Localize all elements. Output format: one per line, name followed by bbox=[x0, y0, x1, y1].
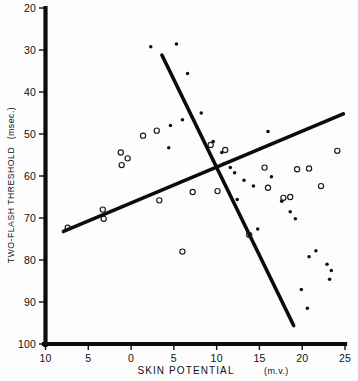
regression-lines bbox=[63, 55, 343, 325]
data-point-filled bbox=[330, 269, 334, 273]
data-point-filled bbox=[181, 118, 185, 122]
y-axis-title: TWO-FLASH THRESHOLD bbox=[6, 147, 16, 263]
data-point-open bbox=[125, 156, 130, 161]
data-point-filled bbox=[199, 111, 203, 115]
x-tick-label: 10 bbox=[39, 352, 51, 364]
data-point-open bbox=[208, 142, 213, 147]
data-point-filled bbox=[256, 227, 260, 231]
data-point-open bbox=[281, 195, 286, 200]
data-point-filled bbox=[235, 198, 239, 202]
y-tick-label: 20 bbox=[24, 2, 36, 14]
data-point-open bbox=[154, 128, 159, 133]
data-point-filled bbox=[233, 171, 237, 175]
x-tick-label: 10 bbox=[211, 352, 223, 364]
data-point-open bbox=[288, 194, 293, 199]
x-tick-label: 25 bbox=[339, 352, 351, 364]
data-point-open bbox=[215, 189, 220, 194]
figure-scatter-plot: 1050510152025 2030405060708090100 SKIN P… bbox=[0, 0, 358, 381]
data-point-open bbox=[157, 198, 162, 203]
data-point-filled bbox=[252, 184, 256, 188]
y-tick-label: 100 bbox=[18, 338, 36, 350]
descending-fit bbox=[162, 55, 294, 325]
data-point-filled bbox=[288, 210, 292, 214]
data-point-open bbox=[118, 150, 123, 155]
plot-canvas: 1050510152025 2030405060708090100 SKIN P… bbox=[0, 0, 358, 381]
y-tick-label: 70 bbox=[24, 212, 36, 224]
ascending-fit bbox=[63, 114, 343, 232]
data-point-open bbox=[101, 216, 106, 221]
caption-strip bbox=[0, 373, 358, 381]
data-point-filled bbox=[223, 162, 227, 166]
data-point-filled bbox=[270, 175, 274, 179]
x-tick-label: 5 bbox=[85, 352, 91, 364]
x-tick-label: 20 bbox=[296, 352, 308, 364]
x-tick-label: 0 bbox=[128, 352, 134, 364]
data-point-open bbox=[306, 166, 311, 171]
data-point-filled bbox=[314, 249, 318, 253]
data-point-filled bbox=[306, 307, 310, 311]
data-point-open bbox=[262, 165, 267, 170]
y-tick-label: 30 bbox=[24, 44, 36, 56]
data-point-filled bbox=[328, 278, 332, 282]
data-points bbox=[65, 42, 340, 310]
data-point-open bbox=[294, 167, 299, 172]
data-point-filled bbox=[307, 255, 311, 259]
data-point-open bbox=[180, 249, 185, 254]
data-point-filled bbox=[300, 288, 304, 292]
y-tick-label: 60 bbox=[24, 170, 36, 182]
data-point-filled bbox=[266, 130, 270, 134]
y-axis-tick-labels: 2030405060708090100 bbox=[18, 2, 36, 350]
data-point-open bbox=[119, 162, 124, 167]
data-point-filled bbox=[325, 262, 329, 266]
x-axis-tick-labels: 1050510152025 bbox=[39, 352, 351, 364]
y-axis-title-group: TWO-FLASH THRESHOLD (msec.) bbox=[6, 107, 16, 263]
data-point-open bbox=[190, 189, 195, 194]
data-point-filled bbox=[175, 42, 179, 46]
data-point-open bbox=[223, 147, 228, 152]
data-point-filled bbox=[242, 178, 246, 182]
data-point-filled bbox=[229, 166, 233, 170]
x-tick-label: 5 bbox=[171, 352, 177, 364]
y-tick-label: 90 bbox=[24, 296, 36, 308]
x-tick-label: 15 bbox=[253, 352, 265, 364]
data-point-filled bbox=[149, 45, 153, 49]
data-point-open bbox=[100, 207, 105, 212]
data-point-filled bbox=[186, 72, 190, 76]
data-point-open bbox=[335, 148, 340, 153]
data-point-open bbox=[265, 185, 270, 190]
y-tick-label: 40 bbox=[24, 86, 36, 98]
y-tick-label: 50 bbox=[24, 128, 36, 140]
data-point-filled bbox=[294, 217, 298, 221]
data-point-open bbox=[140, 133, 145, 138]
y-tick-label: 80 bbox=[24, 254, 36, 266]
data-point-filled bbox=[169, 124, 173, 128]
data-point-open bbox=[318, 183, 323, 188]
data-point-filled bbox=[167, 146, 171, 150]
y-axis-unit: (msec.) bbox=[6, 107, 16, 140]
